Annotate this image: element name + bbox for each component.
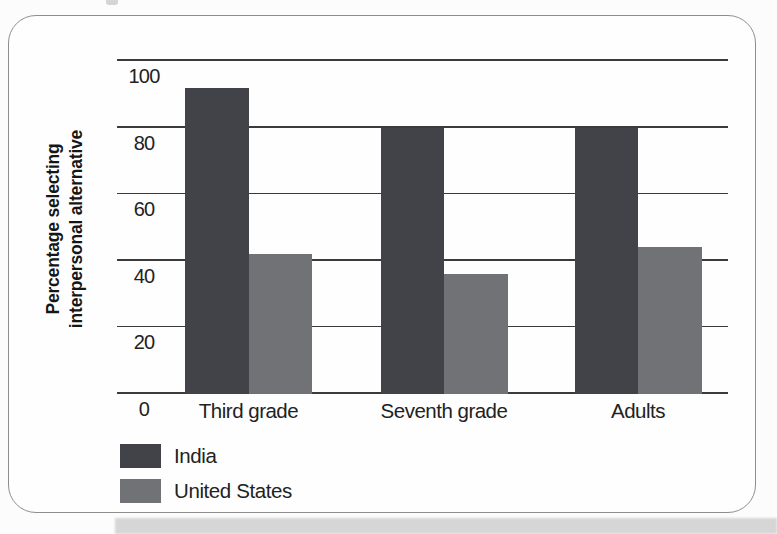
bar-united-states-third-grade bbox=[249, 254, 313, 394]
bar-india-seventh-grade bbox=[381, 128, 445, 394]
bar-united-states-adults bbox=[638, 247, 702, 394]
gridline-100 bbox=[117, 59, 728, 61]
y-tick-label-40: 40 bbox=[123, 265, 165, 288]
x-category-label-adults: Adults bbox=[558, 399, 718, 423]
legend: IndiaUnited States bbox=[120, 444, 292, 514]
y-tick-label-20: 20 bbox=[123, 331, 165, 354]
y-tick-label-0: 0 bbox=[123, 398, 165, 421]
y-tick-label-60: 60 bbox=[123, 198, 165, 221]
bar-india-adults bbox=[575, 128, 639, 394]
x-category-label-seventh-grade: Seventh grade bbox=[364, 399, 524, 423]
legend-row-united-states: United States bbox=[120, 479, 292, 503]
legend-label-india: India bbox=[174, 444, 216, 468]
y-tick-label-80: 80 bbox=[123, 132, 165, 155]
textbook-figure-page: Percentage selecting interpersonal alter… bbox=[0, 0, 777, 534]
figure-card: Percentage selecting interpersonal alter… bbox=[8, 15, 756, 513]
x-category-label-third-grade: Third grade bbox=[169, 399, 329, 423]
legend-swatch-india bbox=[120, 444, 161, 468]
legend-swatch-united-states bbox=[120, 479, 161, 503]
plot-area: 100806040200Third gradeSeventh gradeAdul… bbox=[117, 61, 728, 394]
y-tick-label-100: 100 bbox=[123, 65, 165, 88]
bar-united-states-seventh-grade bbox=[444, 274, 508, 394]
scan-artifact-mark bbox=[106, 0, 118, 5]
legend-row-india: India bbox=[120, 444, 292, 468]
legend-label-united-states: United States bbox=[174, 479, 292, 503]
y-axis-title: Percentage selecting interpersonal alter… bbox=[42, 109, 90, 349]
scan-shadow-strip bbox=[115, 518, 777, 534]
bar-india-third-grade bbox=[185, 88, 249, 394]
